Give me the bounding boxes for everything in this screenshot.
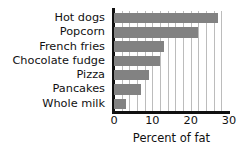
bar-row [114,68,229,82]
bar-hot-dogs [114,13,218,23]
category-label: Popcorn [0,25,105,39]
bar-whole-milk [114,99,126,109]
bar-row [114,54,229,68]
bar-french-fries [114,41,164,51]
category-label: Hot dogs [0,11,105,25]
plot-area [114,11,229,111]
bar-row [114,40,229,54]
x-axis-tick-label: 10 [145,114,159,127]
x-axis-tick-label: 30 [222,114,236,127]
bar-popcorn [114,27,198,37]
category-axis: Hot dogs Popcorn French fries Chocolate … [0,11,105,111]
x-axis-tick-labels: 0102030 [114,114,229,130]
bar-row [114,82,229,96]
category-label: Chocolate fudge [0,54,105,68]
bar-chart: Hot dogs Popcorn French fries Chocolate … [0,0,244,157]
category-label: Pancakes [0,82,105,96]
category-label: Whole milk [0,97,105,111]
x-axis-tick-label: 20 [183,114,197,127]
category-label: Pizza [0,68,105,82]
category-label: French fries [0,40,105,54]
bar-pancakes [114,84,141,94]
bar-row [114,11,229,25]
bar-series [114,11,229,111]
bar-row [114,25,229,39]
x-axis-title: Percent of fat [114,131,229,145]
bar-row [114,97,229,111]
bar-pizza [114,70,149,80]
bar-chocolate-fudge [114,56,160,66]
x-axis-tick-label: 0 [110,114,117,127]
